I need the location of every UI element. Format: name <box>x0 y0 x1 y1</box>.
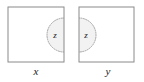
right-region-label-z: z <box>79 31 93 40</box>
left-region-label-z: z <box>48 31 62 40</box>
figure-container: z z x y <box>0 0 144 82</box>
right-square-label-y: y <box>72 66 144 77</box>
left-square-label-x: x <box>0 66 72 77</box>
